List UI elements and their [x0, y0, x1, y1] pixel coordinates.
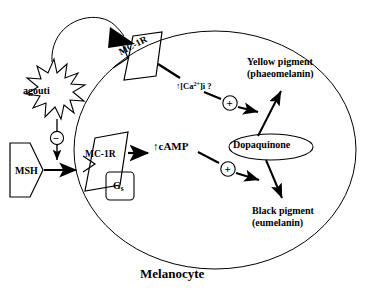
g-protein-subscript: s — [121, 185, 124, 193]
cell-membrane-outline — [74, 31, 356, 269]
plus-to-black-arrow — [236, 173, 259, 180]
plus-operator-upper-label: + — [227, 97, 233, 110]
g-protein-label: Gs — [113, 180, 124, 193]
yellow-pigment-line2: (phaeomelanin) — [247, 68, 314, 80]
calcium-suffix: ]i ? — [200, 81, 212, 91]
black-pigment-line2: (eumelanin) — [252, 217, 314, 229]
melanocyte-caption: Melanocyte — [140, 267, 204, 282]
agouti-label: agouti — [23, 85, 50, 97]
camp-to-plus-line — [198, 152, 219, 163]
plus-to-yellow-arrow — [238, 107, 258, 112]
melanocyte-pathway-diagram: MSH agouti MC-1R MC-1R Gs ↑cAMP ↑[Ca2+]i… — [0, 0, 372, 295]
yellow-pigment-line1: Yellow pigment — [247, 56, 314, 68]
calcium-label: ↑[Ca2+]i ? — [176, 81, 212, 91]
plus-operator-lower-label: + — [225, 163, 231, 176]
dopaquinone-label: Dopaquinone — [233, 139, 290, 151]
yellow-pigment-label: Yellow pigment (phaeomelanin) — [247, 56, 314, 79]
msh-label: MSH — [15, 165, 38, 177]
calcium-prefix: ↑[Ca — [176, 81, 193, 91]
black-pigment-line1: Black pigment — [252, 205, 314, 217]
black-pigment-label: Black pigment (eumelanin) — [252, 205, 314, 228]
g-protein-letter: G — [113, 180, 121, 191]
dopaquinone-to-yellow-arrow — [258, 91, 281, 136]
camp-label: ↑cAMP — [153, 140, 188, 153]
receptor-lower-label: MC-1R — [85, 149, 116, 160]
minus-operator-label: – — [54, 132, 59, 144]
receptor-to-calcium-line — [158, 64, 180, 78]
dopaquinone-to-black-arrow — [266, 160, 282, 198]
calcium-to-plus-line — [204, 92, 221, 99]
